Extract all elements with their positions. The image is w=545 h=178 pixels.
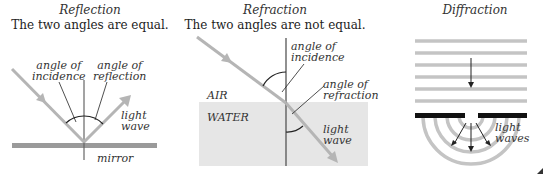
label-light-waves: light waves [495, 122, 529, 144]
diffraction-diagram [370, 0, 545, 178]
refraction-panel: Refraction The two angles are not equal.… [180, 0, 370, 178]
reflection-panel: Reflection The two angles are equal. ang… [0, 0, 180, 178]
refraction-subtitle: The two angles are not equal. [180, 18, 370, 32]
label-angle-of-incidence: angle of incidence [32, 60, 86, 82]
barrier-left [415, 113, 465, 118]
incoming-arrowhead [468, 82, 474, 88]
reflected-ray [84, 100, 126, 142]
refraction-title: Refraction [180, 3, 370, 17]
corner-mark [537, 168, 543, 174]
reflection-title: Reflection [0, 3, 180, 17]
reflection-subtitle: The two angles are equal. [0, 18, 180, 32]
label-line: waves [495, 133, 529, 144]
label-line: incidence [32, 71, 86, 82]
label-angle-of-incidence: angle of incidence [291, 41, 345, 63]
incidence-arc [263, 72, 286, 86]
label-air: AIR [207, 90, 228, 101]
incidence-leader [282, 64, 304, 92]
label-line: wave [323, 135, 352, 146]
label-line: reflection [93, 71, 146, 82]
barrier-right [478, 113, 527, 118]
reflection-arc [84, 116, 103, 124]
label-angle-of-reflection: angle of reflection [93, 60, 146, 82]
reflection-leader [95, 82, 107, 120]
label-mirror: mirror [97, 153, 133, 164]
label-water: WATER [207, 112, 249, 123]
spreading-arrows [454, 123, 488, 148]
diffraction-title: Diffraction [420, 3, 530, 17]
label-light-wave: light wave [323, 124, 352, 146]
incidence-leader [59, 82, 76, 122]
diffraction-panel: Diffraction light waves [370, 0, 545, 178]
label-light-wave: light wave [121, 110, 150, 132]
label-line: incidence [291, 52, 345, 63]
label-line: wave [121, 121, 150, 132]
